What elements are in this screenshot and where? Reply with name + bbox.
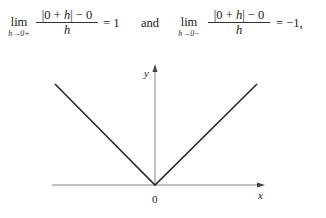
y-axis-arrow-icon [153, 64, 158, 72]
x-axis-arrow-icon [257, 183, 265, 188]
abs-value-graph [0, 0, 326, 218]
y-axis-label: y [144, 68, 149, 79]
origin-label: 0 [152, 194, 158, 205]
abs-value-curve [55, 84, 257, 185]
x-axis-label: x [258, 190, 263, 201]
